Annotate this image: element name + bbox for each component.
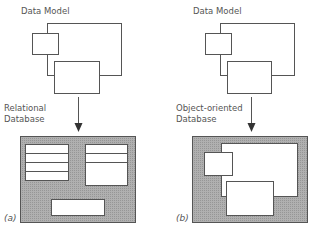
table-bottom-a: [52, 200, 105, 216]
object-middle-box-b: [227, 182, 274, 216]
diagram: Data Model Relational Database: [0, 0, 311, 227]
data-model-middle-box-a: [55, 62, 100, 94]
arrow-b: [248, 97, 256, 132]
database-label-line2-b: Database: [176, 114, 217, 124]
object-oriented-database-b: [193, 137, 308, 223]
object-small-box-b: [205, 153, 233, 176]
panel-tag-a: (a): [4, 213, 17, 223]
data-model-small-box-b: [206, 34, 232, 55]
table-right-a: [86, 145, 128, 186]
data-model-label-a: Data Model: [21, 6, 70, 16]
table-right-frame: [86, 145, 128, 186]
data-model-label-b: Data Model: [193, 6, 242, 16]
database-label-line1-b: Object-oriented: [176, 103, 243, 113]
database-label-line1-a: Relational: [4, 103, 46, 113]
panel-tag-b: (b): [176, 213, 189, 223]
panel-b: Data Model Object-oriented Database (b): [176, 6, 308, 223]
arrow-head-a: [75, 123, 83, 132]
data-model-b: [206, 24, 295, 94]
data-model-a: [33, 24, 122, 94]
database-label-line2-a: Database: [4, 114, 45, 124]
data-model-small-box-a: [33, 34, 59, 55]
table-left-a: [26, 145, 69, 181]
relational-database-a: [21, 137, 136, 223]
panel-a: Data Model Relational Database: [4, 6, 136, 223]
arrow-head-b: [248, 123, 256, 132]
data-model-middle-box-b: [228, 62, 272, 94]
arrow-a: [75, 97, 83, 132]
